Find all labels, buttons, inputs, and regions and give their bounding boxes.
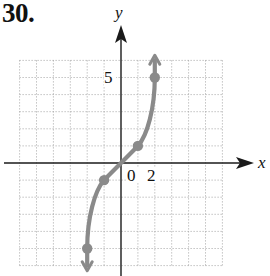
data-point: [99, 175, 109, 185]
x-axis-label: x: [257, 153, 266, 172]
graph: x y 5 0 2: [0, 0, 270, 276]
data-point: [133, 141, 143, 151]
y-axis-label: y: [113, 3, 123, 22]
origin-label: 0: [127, 166, 136, 185]
axes: x y 5 0 2: [4, 3, 266, 276]
data-point: [150, 72, 160, 82]
x-tick-label-2: 2: [147, 166, 156, 185]
y-tick-label-5: 5: [104, 68, 113, 87]
data-point: [82, 243, 92, 253]
